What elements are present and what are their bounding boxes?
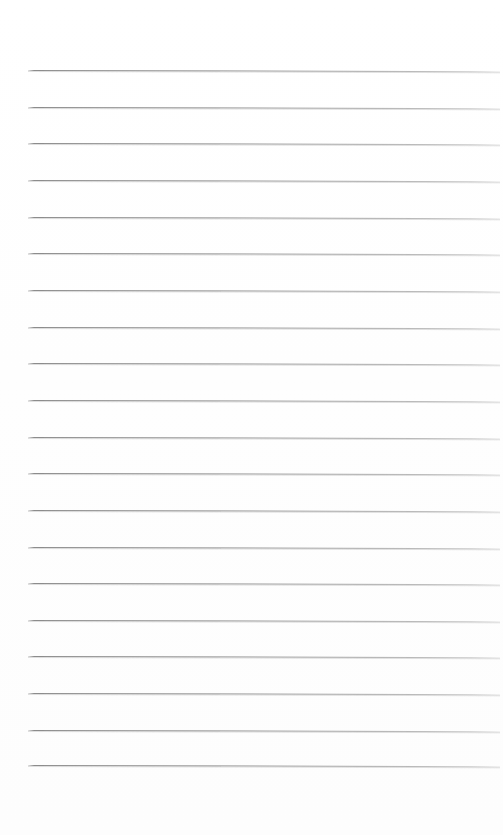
rule-line: [28, 547, 500, 549]
rule-line: [28, 437, 500, 439]
rule-line: [28, 730, 500, 732]
rule-line: [28, 253, 500, 255]
rule-line: [28, 327, 500, 329]
rule-line: [28, 180, 500, 182]
rule-line: [28, 765, 500, 767]
rule-line: [28, 693, 500, 695]
rule-line: [28, 290, 500, 292]
rule-line: [28, 400, 500, 402]
rule-line: [28, 510, 500, 512]
rule-line: [28, 473, 500, 475]
rule-line: [28, 656, 500, 658]
document-page: [0, 0, 503, 835]
ruled-lines-group: [0, 0, 503, 835]
rule-line: [28, 583, 500, 585]
rule-line: [28, 217, 500, 219]
rule-line: [28, 70, 500, 72]
rule-line: [28, 620, 500, 622]
rule-line: [28, 363, 500, 365]
rule-line: [28, 107, 500, 109]
rule-line: [28, 143, 500, 145]
